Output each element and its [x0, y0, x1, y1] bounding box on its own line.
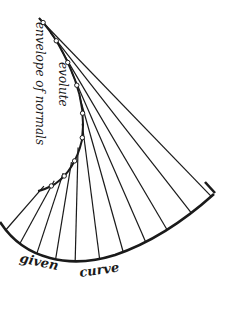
label-evolute: evolute [56, 62, 70, 107]
evolute-point-marker [62, 174, 66, 178]
evolute-point-marker [75, 83, 79, 87]
evolute-point-marker [49, 184, 53, 188]
normal-line [39, 18, 211, 196]
label-curve: curve [78, 260, 120, 280]
normal-line [20, 181, 54, 244]
normal-line [75, 147, 78, 261]
label-given: given [18, 250, 60, 273]
given-curve [0, 194, 214, 261]
evolute-point-marker [80, 111, 84, 115]
evolute-point-marker [72, 159, 76, 163]
label-envelope-of-normals: envelope of normals [33, 22, 47, 145]
evolute-point-marker [80, 135, 84, 139]
normal-line [82, 124, 99, 259]
evolute-diagram: evolute envelope of normals given curve [0, 0, 227, 314]
evolute-point-marker [54, 39, 58, 43]
normal-line [72, 72, 146, 242]
normal-line [6, 186, 44, 230]
